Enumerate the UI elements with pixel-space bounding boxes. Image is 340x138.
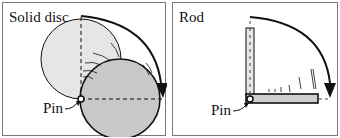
pin-label: Pin (43, 100, 63, 117)
motion-streaks (269, 69, 316, 92)
solid-disc-panel: Solid disc Pin (2, 2, 166, 136)
rotation-arrow (250, 17, 330, 83)
rod-panel: Rod Pin (172, 2, 338, 136)
panel-title: Rod (179, 9, 204, 26)
pin-icon (247, 96, 253, 102)
pin-leader-line (65, 102, 78, 109)
arrowhead-icon (324, 83, 336, 98)
pin-label: Pin (211, 102, 231, 119)
rod-final-position (246, 94, 318, 103)
pin-leader-line (233, 105, 246, 111)
panel-title: Solid disc (9, 9, 69, 26)
pin-leader-arrowhead (244, 103, 249, 108)
